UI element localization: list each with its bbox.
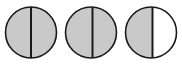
circle-3 (125, 6, 178, 59)
circles-svg-canvas (0, 0, 182, 66)
circle-2-left-half-fill (65, 6, 93, 59)
circle-1-right-half-fill (31, 6, 58, 59)
circle-3-left-half-fill (125, 6, 153, 59)
circle-2-right-half-fill (93, 6, 118, 59)
bisected-circles-figure (0, 0, 182, 66)
circle-3-right-half-fill (153, 6, 178, 59)
circle-1 (5, 6, 58, 59)
circle-1-left-half-fill (5, 6, 32, 59)
circle-2 (65, 6, 118, 59)
